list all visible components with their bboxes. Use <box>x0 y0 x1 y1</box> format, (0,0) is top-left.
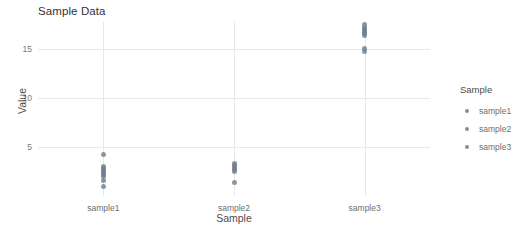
y-axis-title: Value <box>16 71 28 131</box>
legend-item-list: sample1sample2sample3 <box>460 103 522 155</box>
x-axis-title: Sample <box>38 212 430 224</box>
legend-item-label: sample1 <box>479 106 511 116</box>
legend-marker-icon <box>460 109 474 113</box>
legend-item[interactable]: sample2 <box>460 121 522 137</box>
data-point[interactable] <box>101 178 106 183</box>
legend-item-label: sample3 <box>479 142 511 152</box>
legend: Sample sample1sample2sample3 <box>460 84 522 157</box>
data-point[interactable] <box>232 169 237 174</box>
data-point[interactable] <box>362 49 367 54</box>
y-tick-label: 5 <box>27 142 32 152</box>
legend-title: Sample <box>460 84 522 95</box>
legend-marker-icon <box>460 145 474 149</box>
data-point[interactable] <box>232 180 237 185</box>
legend-marker-icon <box>460 127 474 131</box>
scatter-chart: Sample Data 51015sample1sample2sample3 S… <box>0 0 525 235</box>
plot-area: 51015sample1sample2sample3 <box>38 22 430 196</box>
chart-title: Sample Data <box>38 5 106 17</box>
legend-item[interactable]: sample1 <box>460 103 522 119</box>
legend-item[interactable]: sample3 <box>460 139 522 155</box>
data-point[interactable] <box>101 184 106 189</box>
legend-item-label: sample2 <box>479 124 511 134</box>
y-tick-label: 15 <box>23 44 32 54</box>
